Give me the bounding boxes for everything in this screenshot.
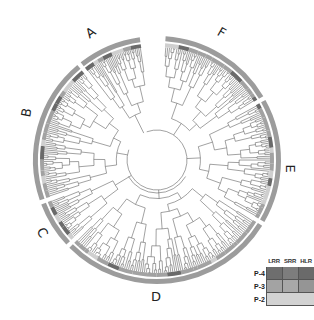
legend-swatch (283, 267, 299, 279)
phenotype-ring (42, 45, 272, 275)
legend-swatch (283, 280, 299, 292)
legend-row-p3: P-3 (250, 280, 314, 293)
legend-swatch (267, 293, 314, 305)
legend-col-lrr: LRR (266, 258, 282, 267)
legend-col-hlr: HLR (298, 258, 314, 267)
legend-row-label: P-2 (250, 296, 266, 303)
legend-cells (266, 280, 314, 293)
legend-col-srr: SRR (282, 258, 298, 267)
legend-row-label: P-3 (250, 283, 266, 290)
clade-label-e: E (284, 164, 297, 172)
clade-label-d: D (151, 290, 161, 303)
legend-header: LRR SRR HLR (266, 258, 314, 267)
legend-cells (266, 267, 314, 280)
legend-row-p2: P-2 (250, 293, 314, 306)
legend-swatch (299, 267, 314, 279)
legend-row-p4: P-4 (250, 267, 314, 280)
legend: LRR SRR HLR P-4 P-3 P-2 (250, 258, 314, 306)
legend-row-label: P-4 (250, 270, 266, 277)
tree-branches (44, 47, 270, 273)
legend-cells (266, 293, 314, 306)
legend-swatch (299, 280, 314, 292)
legend-swatch (267, 280, 283, 292)
legend-swatch (267, 267, 283, 279)
